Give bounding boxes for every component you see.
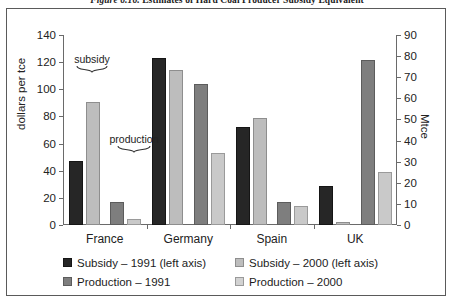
y-axis-right-tick [397, 204, 401, 205]
subsidy-annotation-brace-icon [69, 65, 115, 74]
legend-label-s2000: Subsidy – 2000 (left axis) [249, 257, 378, 269]
plot-area: 020406080100120140 0102030405060708090 F… [63, 35, 397, 225]
bar-s2000-uk [336, 222, 350, 225]
bar-p1991-germany [194, 84, 208, 225]
production-annotation: production [103, 133, 165, 154]
y-axis-left-tick-label: 80 [43, 110, 56, 122]
y-axis-left-tick-label: 120 [37, 56, 56, 68]
y-axis-right-tick-label: 70 [404, 71, 417, 83]
y-axis-right-tick-label: 80 [404, 50, 417, 62]
figure-title-text: Estimates of Hard Coal Producer Subsidy … [142, 0, 364, 5]
y-axis-right-tick-label: 0 [404, 219, 410, 231]
legend-label-p1991: Production – 1991 [77, 276, 170, 288]
y-axis-right-tick [397, 98, 401, 99]
y-axis-right-tick [397, 35, 401, 36]
y-axis-right-tick-label: 50 [404, 113, 417, 125]
bar-p1991-france [110, 202, 124, 225]
y-axis-right-tick [397, 119, 401, 120]
y-axis-left-tick-label: 100 [37, 83, 56, 95]
subsidy-annotation: subsidy [69, 53, 115, 74]
legend-swatch-s2000 [235, 258, 244, 267]
production-annotation-label: production [103, 133, 165, 145]
bar-s2000-france [86, 102, 100, 226]
chart-panel: dollars per tce Mtce 020406080100120140 … [6, 8, 446, 296]
legend-item-p1991: Production – 1991 [63, 276, 235, 288]
bar-p2000-spain [294, 206, 308, 225]
figure-title: Figure 6.16. Estimates of Hard Coal Prod… [0, 0, 454, 7]
y-axis-left-tick-label: 140 [37, 29, 56, 41]
figure-number: Figure 6.16. [90, 0, 140, 5]
y-axis-left-tick [59, 225, 63, 226]
bar-s1991-spain [236, 127, 250, 225]
bar-group-spain [230, 35, 314, 225]
bar-p2000-france [127, 219, 141, 225]
bar-group-uk [314, 35, 398, 225]
bar-s1991-uk [319, 186, 333, 225]
chart-legend: Subsidy – 1991 (left axis)Subsidy – 2000… [63, 253, 413, 291]
y-axis-right-tick-label: 10 [404, 198, 417, 210]
legend-label-s1991: Subsidy – 1991 (left axis) [77, 257, 206, 269]
x-axis-label-france: France [86, 232, 123, 246]
legend-label-p2000: Production – 2000 [249, 276, 342, 288]
y-axis-left-tick-label: 0 [50, 219, 56, 231]
legend-swatch-s1991 [63, 258, 72, 267]
bar-s2000-spain [253, 118, 267, 225]
legend-item-s2000: Subsidy – 2000 (left axis) [235, 257, 413, 269]
y-axis-right-tick-label: 30 [404, 156, 417, 168]
y-axis-right-tick [397, 162, 401, 163]
legend-swatch-p1991 [63, 277, 72, 286]
x-axis-label-uk: UK [347, 232, 364, 246]
production-annotation-brace-icon [103, 145, 165, 154]
y-axis-right-tick [397, 183, 401, 184]
bar-s2000-germany [169, 70, 183, 225]
bar-p1991-spain [277, 202, 291, 225]
x-axis-separator [230, 225, 231, 229]
y-axis-right-tick [397, 56, 401, 57]
x-axis-label-germany: Germany [164, 232, 213, 246]
legend-item-s1991: Subsidy – 1991 (left axis) [63, 257, 235, 269]
y-axis-right-tick-label: 40 [404, 135, 417, 147]
legend-swatch-p2000 [235, 277, 244, 286]
subsidy-annotation-label: subsidy [69, 53, 115, 65]
y-axis-left-title: dollars per tce [15, 58, 27, 130]
legend-item-p2000: Production – 2000 [235, 276, 413, 288]
y-axis-right-title: Mtce [419, 114, 431, 139]
x-axis-label-spain: Spain [256, 232, 287, 246]
y-axis-right-tick-label: 90 [404, 29, 417, 41]
bar-p2000-germany [211, 153, 225, 225]
y-axis-left-tick-label: 60 [43, 138, 56, 150]
bar-group-germany [147, 35, 231, 225]
bar-p1991-uk [361, 60, 375, 225]
y-axis-right-tick [397, 77, 401, 78]
x-axis-separator [314, 225, 315, 229]
y-axis-right-tick-label: 60 [404, 92, 417, 104]
y-axis-right-tick [397, 141, 401, 142]
y-axis-left-tick-label: 20 [43, 192, 56, 204]
y-axis-left-tick-label: 40 [43, 165, 56, 177]
y-axis-right-tick [397, 225, 401, 226]
x-axis-separator [147, 225, 148, 229]
bar-s1991-france [69, 161, 83, 225]
bar-p2000-uk [378, 172, 392, 225]
y-axis-right-tick-label: 20 [404, 177, 417, 189]
